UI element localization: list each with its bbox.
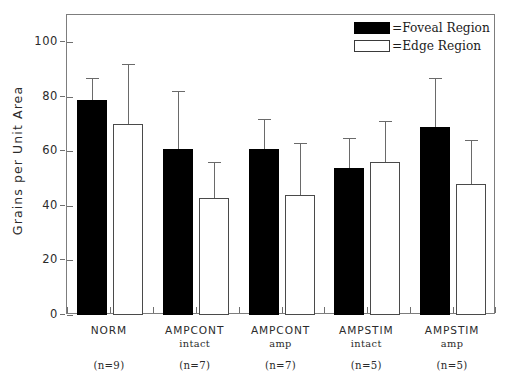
error-bar-cap [294, 143, 307, 144]
x-axis-tick [367, 307, 368, 313]
error-bar-cap [379, 121, 392, 122]
bar-edge [456, 184, 486, 315]
bar-foveal [163, 149, 193, 315]
legend-label-foveal: =Foveal Region [392, 21, 490, 35]
y-axis-tick [67, 151, 73, 152]
open-square-icon [354, 40, 390, 52]
error-bar-stem [214, 162, 215, 197]
filled-square-icon [354, 22, 390, 34]
error-bar-stem [264, 119, 265, 149]
legend-label-edge: =Edge Region [392, 39, 481, 53]
error-bar-cap [172, 91, 185, 92]
error-bar-stem [92, 78, 93, 100]
group-label-line2: intact [165, 338, 224, 349]
group-label-line1: AMPSTIM [339, 324, 394, 336]
legend-item-edge: =Edge Region [354, 37, 495, 55]
group-sample-size: (n=5) [437, 360, 468, 371]
error-bar-cap [122, 64, 135, 65]
group-label-line1: AMPSTIM [425, 324, 480, 336]
error-bar-stem [385, 121, 386, 162]
bar-edge [370, 162, 400, 315]
x-axis-group-label: NORM [91, 324, 127, 336]
legend-item-foveal: =Foveal Region [354, 19, 495, 37]
y-axis-tick [67, 260, 73, 261]
y-axis-tick-label: 80 [28, 89, 58, 103]
group-label-line2: intact [339, 338, 394, 349]
x-axis-tick [495, 307, 496, 313]
x-axis-tick [196, 307, 197, 313]
y-axis-tick-label: 0 [28, 307, 58, 321]
error-bar-cap [343, 138, 356, 139]
x-axis-tick [110, 307, 111, 313]
bar-foveal [77, 100, 107, 315]
legend: =Foveal Region =Edge Region [349, 15, 495, 60]
y-axis-tick-outer [60, 96, 65, 97]
x-axis-tick [453, 307, 454, 313]
group-label-line1: AMPCONT [251, 324, 310, 336]
error-bar-cap [208, 162, 221, 163]
x-axis-tick [67, 307, 68, 313]
error-bar-stem [471, 140, 472, 184]
y-axis-tick-outer [60, 205, 65, 206]
x-axis-tick [410, 307, 411, 313]
error-bar-stem [300, 143, 301, 195]
x-axis-group-label: AMPSTIMamp [425, 324, 480, 349]
x-axis-group-label: AMPCONTamp [251, 324, 310, 349]
y-axis-tick-label: 20 [28, 252, 58, 266]
bar-foveal [420, 127, 450, 315]
error-bar-cap [465, 140, 478, 141]
bar-edge [113, 124, 143, 315]
x-axis-group-label: AMPSTIMintact [339, 324, 394, 349]
error-bar-stem [178, 91, 179, 148]
y-axis-title: Grains per Unit Area [6, 60, 30, 260]
error-bar-stem [435, 78, 436, 127]
y-axis-tick [67, 206, 73, 207]
group-sample-size: (n=9) [93, 360, 124, 371]
y-axis-tick-label: 100 [28, 34, 58, 48]
group-sample-size: (n=7) [265, 360, 296, 371]
y-axis-tick-outer [60, 259, 65, 260]
x-axis-tick [239, 307, 240, 313]
bar-foveal [334, 168, 364, 315]
y-axis-tick [67, 315, 73, 316]
y-axis-tick-outer [60, 41, 65, 42]
group-label-line1: AMPCONT [165, 324, 224, 336]
y-axis-tick-label: 40 [28, 198, 58, 212]
group-label-line2: amp [251, 338, 310, 349]
x-axis-group-label: AMPCONTintact [165, 324, 224, 349]
bar-edge [199, 198, 229, 315]
error-bar-cap [429, 78, 442, 79]
y-axis-tick [67, 97, 73, 98]
y-axis-tick-label: 60 [28, 143, 58, 157]
group-label-line2: amp [425, 338, 480, 349]
bar-edge [285, 195, 315, 315]
group-sample-size: (n=5) [351, 360, 382, 371]
group-label-line1: NORM [91, 324, 127, 336]
error-bar-stem [349, 138, 350, 168]
plot-area: =Foveal Region =Edge Region [66, 14, 495, 314]
bar-foveal [249, 149, 279, 315]
x-axis-tick [324, 307, 325, 313]
y-axis-tick-outer [60, 314, 65, 315]
y-axis-title-text: Grains per Unit Area [11, 85, 26, 234]
y-axis-tick [67, 42, 73, 43]
bar-chart: Grains per Unit Area 020406080100 =Fovea… [0, 0, 507, 381]
y-axis-tick-outer [60, 150, 65, 151]
x-axis-tick [282, 307, 283, 313]
group-sample-size: (n=7) [179, 360, 210, 371]
error-bar-cap [86, 78, 99, 79]
x-axis-tick [153, 307, 154, 313]
error-bar-cap [258, 119, 271, 120]
error-bar-stem [128, 64, 129, 124]
